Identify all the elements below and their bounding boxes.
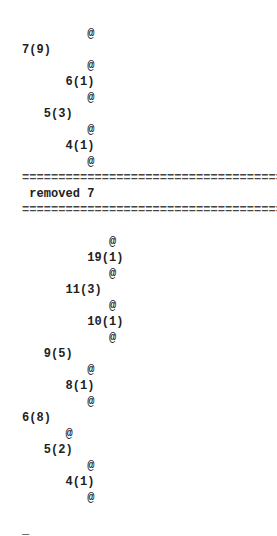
tree-node-line: 7(9) bbox=[22, 42, 277, 58]
tree-node-line: 6(8) bbox=[22, 410, 277, 426]
separator-line: ===================================== bbox=[22, 170, 277, 186]
tree-node-line: 8(1) bbox=[22, 378, 277, 394]
tree-node-line: @ bbox=[22, 234, 277, 250]
tree-node-line: @ bbox=[22, 298, 277, 314]
tree-node-line: @ bbox=[22, 458, 277, 474]
tree-node-line: 4(1) bbox=[22, 474, 277, 490]
tree-node-line: @ bbox=[22, 90, 277, 106]
tree-node-line: 5(2) bbox=[22, 442, 277, 458]
tree-node-line: @ bbox=[22, 122, 277, 138]
tree-node-line: 9(5) bbox=[22, 346, 277, 362]
tree-node-line: @ bbox=[22, 154, 277, 170]
tree-node-line: 10(1) bbox=[22, 314, 277, 330]
tree-node-line: @ bbox=[22, 426, 277, 442]
tree-node-line: 4(1) bbox=[22, 138, 277, 154]
tree-node-line: 19(1) bbox=[22, 250, 277, 266]
tree-node-line: 11(3) bbox=[22, 282, 277, 298]
tree-node-line: @ bbox=[22, 490, 277, 506]
separator-line: ===================================== bbox=[22, 202, 277, 218]
blank-line bbox=[22, 506, 277, 522]
tree-node-line: 6(1) bbox=[22, 74, 277, 90]
tree-node-line: @ bbox=[22, 362, 277, 378]
tree-node-line: 5(3) bbox=[22, 106, 277, 122]
tree-node-line: @ bbox=[22, 266, 277, 282]
tree-node-line: @ bbox=[22, 58, 277, 74]
tree-node-line: @ bbox=[22, 330, 277, 346]
terminal-output: @7(9) @ 6(1) @ 5(3) @ 4(1) @============… bbox=[22, 26, 277, 536]
tree-node-line: @ bbox=[22, 26, 277, 42]
blank-line bbox=[22, 218, 277, 234]
text-cursor: _ bbox=[22, 522, 277, 536]
tree-node-line: @ bbox=[22, 394, 277, 410]
status-message: removed 7 bbox=[22, 186, 277, 202]
